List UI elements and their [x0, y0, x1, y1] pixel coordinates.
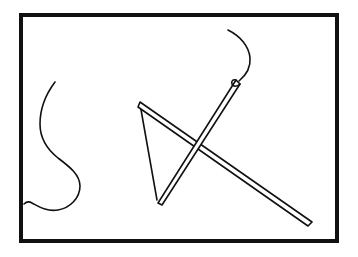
sketch-canvas	[0, 0, 358, 257]
line-drawing-illustration	[0, 0, 358, 257]
